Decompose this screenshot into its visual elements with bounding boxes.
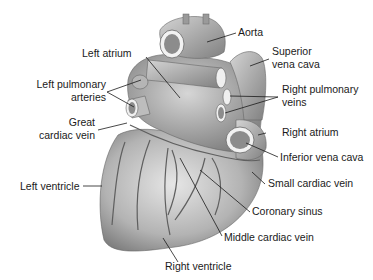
label-small-cardiac-vein: Small cardiac vein (268, 177, 353, 189)
label-great-cardiac-vein-line1: Great (10, 116, 95, 128)
label-aorta: Aorta (238, 26, 263, 38)
label-right-atrium: Right atrium (282, 126, 339, 138)
label-left-pulmonary-arteries-line1: Left pulmonary (14, 78, 106, 90)
label-great-cardiac-vein-line2: cardiac vein (10, 129, 95, 141)
label-middle-cardiac-vein: Middle cardiac vein (224, 231, 314, 243)
label-left-atrium: Left atrium (82, 47, 132, 59)
label-superior-vena-cava-line1: Superior (272, 45, 312, 57)
label-left-ventricle: Left ventricle (20, 180, 80, 192)
label-superior-vena-cava-line2: vena cava (272, 58, 320, 70)
label-inferior-vena-cava: Inferior vena cava (280, 151, 363, 163)
label-right-pulmonary-veins-line2: veins (282, 96, 307, 108)
heart-diagram: Aorta Superior vena cava Left atrium Lef… (0, 0, 373, 280)
label-left-pulmonary-arteries-line2: arteries (14, 91, 106, 103)
label-right-pulmonary-veins-line1: Right pulmonary (282, 83, 358, 95)
label-right-ventricle: Right ventricle (165, 260, 232, 272)
label-coronary-sinus: Coronary sinus (252, 205, 323, 217)
